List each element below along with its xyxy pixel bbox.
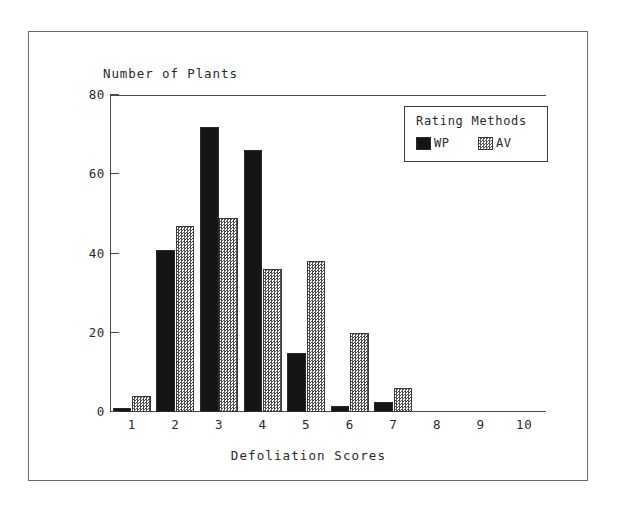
y-axis-tick-label: 60	[89, 166, 105, 181]
y-axis-tick-mark	[110, 94, 119, 95]
legend-swatch-av-icon	[478, 137, 493, 150]
bar-av-7	[394, 388, 413, 412]
x-axis-title: Defoliation Scores	[0, 448, 617, 463]
y-axis-tick-label: 20	[89, 325, 105, 340]
bar-wp-4	[244, 150, 263, 412]
x-axis-tick-label: 7	[372, 417, 416, 432]
x-axis-tick-label: 10	[502, 417, 546, 432]
legend-box: Rating Methods WP AV	[404, 106, 548, 162]
bar-av-2	[176, 226, 195, 412]
x-axis-tick-label: 2	[154, 417, 198, 432]
legend-swatch-wp-icon	[416, 137, 431, 150]
bar-wp-6	[331, 406, 350, 412]
x-axis-tick-label: 3	[197, 417, 241, 432]
legend-label-wp: WP	[434, 136, 449, 150]
y-axis-tick-label: 80	[89, 87, 105, 102]
chart-page: Number of Plants 020406080 12345678910 D…	[0, 0, 617, 510]
x-axis-tick-label: 6	[328, 417, 372, 432]
x-axis-tick-label: 9	[459, 417, 503, 432]
x-axis-tick-label: 1	[110, 417, 154, 432]
x-axis-tick-label: 8	[415, 417, 459, 432]
y-axis-title: Number of Plants	[103, 66, 238, 81]
y-axis-tick-labels: 020406080	[60, 0, 105, 510]
bar-av-1	[132, 396, 151, 412]
y-axis-tick-label: 0	[97, 404, 105, 419]
legend-label-av: AV	[496, 136, 511, 150]
y-axis-tick-mark	[110, 411, 119, 412]
x-axis-tick-label: 5	[284, 417, 328, 432]
legend-title: Rating Methods	[416, 114, 527, 128]
x-axis-tick-label: 4	[241, 417, 285, 432]
bar-wp-2	[156, 250, 175, 412]
y-axis-tick-mark	[110, 173, 119, 174]
bar-wp-5	[287, 353, 306, 412]
x-axis-tick-labels: 12345678910	[110, 417, 546, 439]
bar-wp-7	[374, 402, 393, 412]
bar-wp-3	[200, 127, 219, 412]
bar-av-3	[219, 218, 238, 412]
bar-av-4	[263, 269, 282, 412]
y-axis-tick-mark	[110, 253, 119, 254]
bar-av-5	[307, 261, 326, 412]
bar-av-6	[350, 333, 369, 412]
y-axis-tick-mark	[110, 332, 119, 333]
y-axis-tick-label: 40	[89, 246, 105, 261]
